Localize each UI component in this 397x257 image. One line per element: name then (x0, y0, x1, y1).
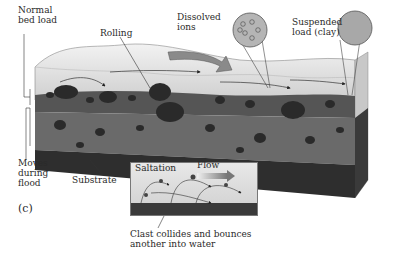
label-normal-bed-load: Normal bed load (18, 5, 68, 25)
label-suspended-load: Suspended load (clay) (292, 17, 347, 37)
label-rolling: Rolling (100, 28, 132, 38)
label-clast-collides: Clast collides and bounces another into … (130, 229, 255, 249)
label-dissolved-ions: Dissolved ions (177, 12, 217, 32)
label-saltation: Saltation (135, 163, 176, 173)
label-substrate: Substrate (72, 175, 117, 185)
label-flow: Flow (197, 160, 219, 170)
stream-block-diagram (0, 0, 397, 257)
label-moves-during-flood: Moves during flood (18, 158, 58, 188)
panel-label: (c) (18, 204, 33, 214)
